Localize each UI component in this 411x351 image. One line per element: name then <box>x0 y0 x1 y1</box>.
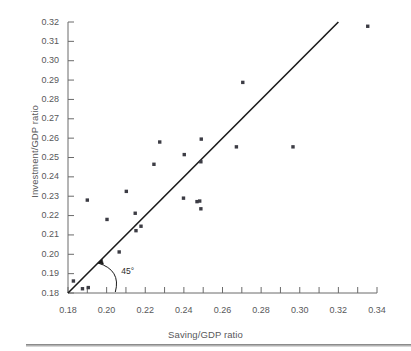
x-axis-tick-label: 0.22 <box>125 306 165 315</box>
y-axis-title: Investment/GDP ratio <box>29 62 40 242</box>
data-point <box>198 199 201 202</box>
data-point <box>199 160 202 163</box>
angle-annotation-label: 45° <box>121 266 134 276</box>
data-point <box>200 137 203 140</box>
data-point <box>105 218 108 221</box>
y-axis-tick-label: 0.32 <box>25 18 59 27</box>
x-axis-title: Saving/GDP ratio <box>0 329 411 340</box>
x-axis-tick-label: 0.34 <box>357 306 397 315</box>
data-point <box>125 190 128 193</box>
x-axis-tick-label: 0.32 <box>318 306 358 315</box>
x-axis-tick-label: 0.18 <box>48 306 88 315</box>
x-axis-tick-label: 0.20 <box>87 306 127 315</box>
x-axis-tick-label: 0.28 <box>241 306 281 315</box>
y-axis-tick-label: 0.18 <box>25 289 59 298</box>
data-point <box>182 196 185 199</box>
x-axis-tick-label: 0.24 <box>164 306 204 315</box>
data-point <box>134 212 137 215</box>
data-point <box>134 229 137 232</box>
reference-line-45deg <box>68 22 338 293</box>
data-point <box>291 145 294 148</box>
data-point <box>158 140 161 143</box>
y-axis-tick-label: 0.31 <box>25 37 59 46</box>
data-point <box>87 286 90 289</box>
data-point <box>81 287 84 290</box>
data-point <box>72 279 75 282</box>
x-axis-tick-label: 0.26 <box>203 306 243 315</box>
chart-canvas <box>0 0 411 351</box>
angle-annotation-arrow <box>98 263 117 292</box>
data-point <box>117 250 120 253</box>
data-points-group <box>72 25 370 291</box>
y-axis-tick-label: 0.19 <box>25 269 59 278</box>
bottom-divider <box>26 344 411 347</box>
data-point <box>235 145 238 148</box>
data-point <box>86 198 89 201</box>
data-point <box>241 81 244 84</box>
data-point <box>183 153 186 156</box>
data-point <box>139 225 142 228</box>
x-axis-tick-label: 0.30 <box>280 306 320 315</box>
data-point <box>366 25 369 28</box>
scatter-chart: 0.180.190.200.210.220.230.240.250.260.27… <box>0 0 411 351</box>
data-point <box>199 207 202 210</box>
y-axis-tick-label: 0.20 <box>25 250 59 259</box>
data-point <box>152 163 155 166</box>
